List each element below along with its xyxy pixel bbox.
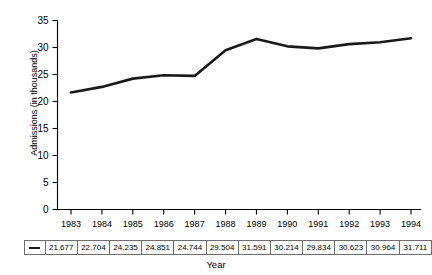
x-axis-title: Year: [0, 259, 432, 270]
x-tick-label: 1989: [246, 219, 266, 229]
y-tick-label: 10: [37, 150, 49, 161]
y-tick-label: 20: [37, 96, 49, 107]
y-tick-label: 15: [37, 123, 49, 134]
table-cell-value: 22.704: [77, 241, 109, 255]
table-cell-value: 24.235: [109, 241, 141, 255]
table-row: 21.67722.70424.23524.85124.74429.50431.5…: [25, 241, 432, 255]
table-cell-value: 31.591: [238, 241, 270, 255]
x-tick-label: 1986: [154, 219, 174, 229]
y-axis-tick-labels: 05101520253035: [37, 15, 49, 215]
y-tick-label: 30: [37, 42, 49, 53]
table-cell-value: 30.214: [270, 241, 302, 255]
x-axis-tick-labels: 1983198419851986198719881989199019911992…: [61, 219, 421, 229]
y-tick-label: 5: [43, 177, 49, 188]
x-tick-label: 1985: [123, 219, 143, 229]
series-line-admissions: [71, 38, 411, 92]
x-tick-label: 1990: [277, 219, 297, 229]
y-axis-tick-marks: [53, 21, 58, 210]
table-cell-value: 24.744: [174, 241, 206, 255]
axis-lines: [58, 21, 422, 210]
legend-cell: [25, 241, 46, 255]
table-cell-value: 30.623: [335, 241, 367, 255]
table-cell-value: 29.504: [206, 241, 238, 255]
y-tick-label: 25: [37, 69, 49, 80]
x-tick-label: 1984: [92, 219, 112, 229]
table-cell-value: 31.711: [399, 241, 431, 255]
x-tick-label: 1983: [61, 219, 81, 229]
x-tick-label: 1988: [216, 219, 236, 229]
table-cell-value: 29.834: [303, 241, 335, 255]
x-tick-label: 1992: [339, 219, 359, 229]
x-tick-label: 1993: [370, 219, 390, 229]
table-cell-value: 24.851: [142, 241, 174, 255]
x-tick-label: 1994: [401, 219, 421, 229]
y-tick-label: 0: [43, 204, 49, 215]
line-swatch-icon: [29, 247, 40, 250]
table-cell-value: 21.677: [45, 241, 77, 255]
line-chart-figure: Admissions (in thousands) 05101520253035…: [0, 0, 432, 275]
x-tick-label: 1991: [308, 219, 328, 229]
data-table: 21.67722.70424.23524.85124.74429.50431.5…: [24, 240, 432, 255]
x-tick-label: 1987: [185, 219, 205, 229]
plot-area: 05101520253035 1983198419851986198719881…: [0, 0, 432, 240]
y-tick-label: 35: [37, 15, 49, 26]
x-axis-tick-marks: [71, 210, 411, 215]
table-cell-value: 30.964: [367, 241, 399, 255]
